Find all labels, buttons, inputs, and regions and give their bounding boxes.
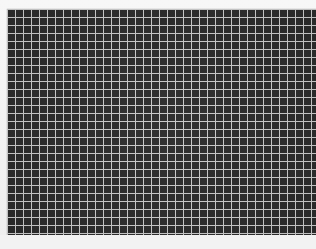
- bottom-margin: [0, 235, 316, 249]
- grid-pattern: [7, 9, 316, 235]
- image-canvas: [0, 0, 316, 249]
- grid-shading: [7, 9, 316, 235]
